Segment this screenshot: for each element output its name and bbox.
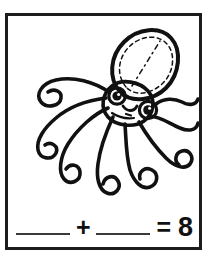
octopus-tentacle-5 [125,124,157,188]
octopus-right-eye-highlight [148,107,151,110]
octopus-head-inner-dashes [120,37,173,93]
plus-sign: + [72,215,95,240]
octopus-illustration [8,16,199,206]
octopus-line-art-icon [8,16,199,206]
worksheet-card: + = 8 [0,0,211,259]
octopus-tentacle-1 [39,79,109,106]
equation-blank-1[interactable] [16,233,70,235]
octopus-right-eye-pupil [143,105,153,115]
equals-sign: = [152,215,175,240]
octopus-tentacle-7 [149,116,198,130]
card-frame: + = 8 [5,13,202,250]
octopus-left-eye-highlight [117,93,120,96]
equation-blank-2[interactable] [96,233,150,235]
equation-row: + = 8 [8,208,199,247]
octopus-mouth [123,106,137,111]
octopus-tentacle-4 [97,117,119,194]
equation-sum: 8 [175,214,193,241]
octopus-head-center-dash [132,41,160,86]
octopus-left-eye-pupil [112,91,121,100]
octopus-mouth-crease [126,114,131,116]
octopus-tentacle-8 [156,99,198,104]
